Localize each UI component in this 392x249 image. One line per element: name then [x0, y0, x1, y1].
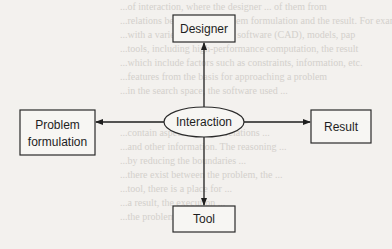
- node-designer: Designer: [173, 15, 235, 42]
- interaction-diagram: Designer Problem formulation Interaction…: [0, 0, 392, 249]
- node-interaction: Interaction: [164, 107, 244, 137]
- node-problem-formulation: Problem formulation: [20, 110, 95, 155]
- node-tool: Tool: [173, 206, 235, 232]
- result-label: Result: [324, 120, 359, 134]
- designer-label: Designer: [180, 22, 228, 36]
- node-result: Result: [311, 110, 371, 143]
- interaction-label: Interaction: [176, 115, 232, 129]
- tool-label: Tool: [193, 212, 215, 226]
- problem-formulation-label-line2: formulation: [28, 135, 87, 149]
- problem-formulation-label-line1: Problem: [35, 118, 80, 132]
